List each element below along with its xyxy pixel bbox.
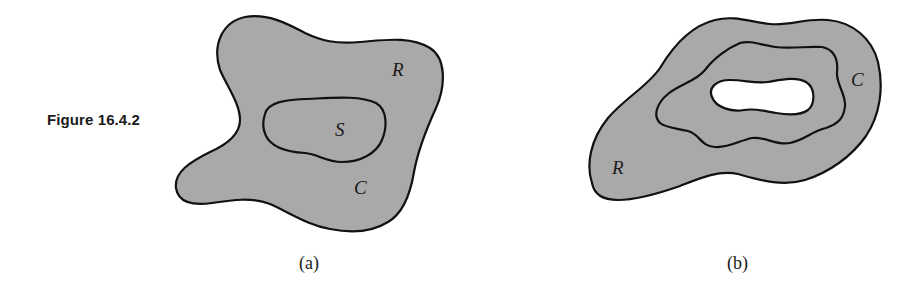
label-r-a: R — [391, 59, 404, 80]
label-c-b: C — [851, 69, 864, 90]
hole — [711, 79, 813, 115]
label-c-a: C — [354, 177, 367, 198]
caption-b: (b) — [727, 253, 748, 274]
region-r-a — [176, 16, 443, 231]
panel-b: R C (b) — [589, 18, 880, 274]
label-r-b: R — [611, 157, 624, 178]
label-s: S — [335, 119, 345, 140]
panel-a: S R C (a) — [176, 16, 443, 274]
caption-a: (a) — [299, 253, 319, 274]
figure-canvas: S R C (a) R C (b) — [0, 0, 920, 299]
